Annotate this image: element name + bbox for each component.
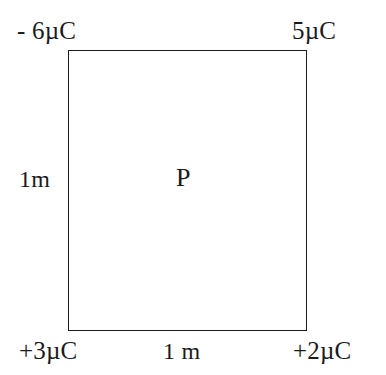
point-label-center: P xyxy=(176,165,191,191)
charge-label-bottom-right: +2µC xyxy=(293,338,351,363)
charge-label-bottom-left: +3µC xyxy=(19,338,77,363)
dimension-label-left-side: 1m xyxy=(19,167,50,191)
charge-label-top-left: - 6µC xyxy=(17,18,76,43)
dimension-label-bottom-side: 1 m xyxy=(163,339,200,363)
charge-label-top-right: 5µC xyxy=(292,18,336,43)
charge-square-figure: - 6µC 5µC +3µC +2µC 1m 1 m P xyxy=(0,0,386,375)
